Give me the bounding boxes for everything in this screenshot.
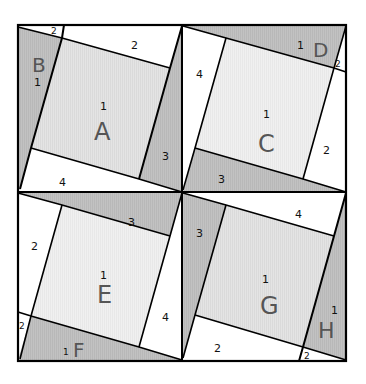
label-g-top: 4: [295, 208, 302, 221]
quadrant-bottom-right: 4 3 1 G 1 H 2 2: [182, 192, 346, 361]
label-2-small: 2: [19, 321, 25, 331]
label-a: A: [94, 118, 111, 146]
dissection-diagram: 2 B 1 2 1 A 3 4 1 D 2 4 1 C 2 3: [0, 0, 366, 384]
label-g-num: 1: [262, 273, 269, 286]
label-f: F: [73, 338, 85, 362]
label-f-num: 1: [63, 347, 69, 357]
label-2-small: 2: [335, 59, 341, 69]
quadrant-top-right: 1 D 2 4 1 C 2 3: [182, 25, 346, 192]
label-2-small: 2: [304, 351, 310, 361]
label-g-left: 3: [196, 227, 203, 240]
label-e: E: [97, 281, 112, 309]
label-e-left: 2: [31, 240, 38, 253]
label-c-bottom: 3: [218, 173, 225, 186]
label-b: B: [32, 53, 46, 77]
label-2-small: 2: [51, 26, 57, 36]
label-c-num: 1: [263, 108, 270, 121]
label-b-num: 1: [34, 76, 41, 89]
label-e-top: 3: [128, 216, 135, 229]
label-a-right: 3: [162, 150, 169, 163]
label-g: G: [260, 292, 279, 320]
quadrant-top-left: 2 B 1 2 1 A 3 4: [18, 25, 182, 192]
label-h-num: 1: [331, 304, 338, 317]
label-d-num: 1: [297, 39, 304, 52]
label-a-top: 2: [131, 39, 138, 52]
label-e-right: 4: [162, 311, 169, 324]
label-g-bottom: 2: [214, 342, 221, 355]
label-a-num: 1: [100, 100, 107, 113]
quadrant-bottom-left: 3 2 1 E 4 2 1 F: [18, 192, 182, 362]
label-c-left: 4: [196, 68, 203, 81]
label-c-right: 2: [323, 144, 330, 157]
label-d: D: [313, 38, 328, 62]
label-a-bottom: 4: [59, 176, 66, 189]
label-c: C: [258, 130, 275, 158]
label-h: H: [318, 318, 335, 343]
